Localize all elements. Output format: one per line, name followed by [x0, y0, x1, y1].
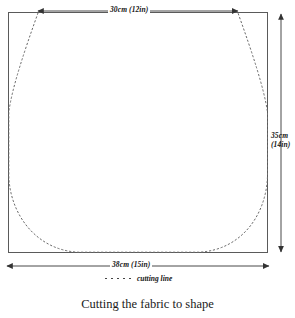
right-dimension-label: 35cm (14in) [271, 131, 290, 149]
figure-caption: Cutting the fabric to shape [0, 297, 295, 312]
dotted-line-swatch-icon [105, 278, 133, 279]
fabric-cutting-figure: 30cm (12in) 38cm (15in) 35cm (14in) cutt… [0, 0, 295, 318]
top-dimension-label: 30cm (12in) [108, 5, 150, 14]
right-dimension-label-cm: 35cm [271, 131, 290, 140]
cutting-line-legend-label: cutting line [137, 274, 172, 283]
cutting-line-legend: cutting line [105, 272, 172, 284]
right-dimension-label-in: (14in) [271, 140, 290, 149]
bottom-dimension-label: 38cm (15in) [110, 260, 152, 269]
diagram-canvas [0, 0, 295, 318]
fabric-rectangle [9, 13, 268, 253]
